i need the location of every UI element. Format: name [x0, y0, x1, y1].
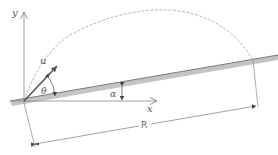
projectile-incline-diagram: y x u θ α R: [0, 0, 278, 155]
range-label: R: [141, 120, 147, 130]
range-dimension: [24, 60, 258, 147]
alpha-label: α: [110, 89, 116, 99]
theta-label: θ: [41, 86, 47, 96]
y-axis-label: y: [11, 7, 18, 18]
velocity-label: u: [40, 55, 46, 66]
trajectory-curve: [24, 10, 253, 101]
x-axis-label: x: [147, 103, 153, 114]
